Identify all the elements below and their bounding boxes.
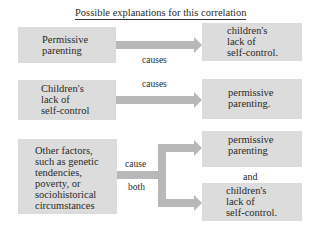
label-causes-row2: causes xyxy=(142,79,167,89)
arrow-row3-fork xyxy=(116,140,202,211)
box-permissive-parenting-effect-row3: permissive parenting xyxy=(202,131,302,167)
box-line: permissive xyxy=(228,134,302,145)
box-line: Permissive xyxy=(42,34,116,45)
box-line: lack of xyxy=(226,196,302,207)
box-children-lack-self-control-effect-row3: children's lack of self-control. xyxy=(202,183,302,221)
box-line: poverty, or xyxy=(35,178,117,189)
box-children-lack-self-control-cause: Children's lack of self-control xyxy=(18,80,116,120)
box-permissive-parenting-effect: permissive parenting. xyxy=(202,79,302,119)
box-line: self-control xyxy=(41,105,116,116)
arrow-row2 xyxy=(116,92,202,108)
arrow-row1 xyxy=(116,37,202,53)
box-line: sociohistorical xyxy=(35,189,117,200)
box-line: circumstances xyxy=(35,200,117,211)
box-line: self-control. xyxy=(226,207,302,218)
box-line: lack of xyxy=(227,36,302,47)
box-line: permissive xyxy=(228,87,302,98)
box-line: children's xyxy=(226,185,302,196)
label-and: and xyxy=(243,171,257,182)
box-line: children's xyxy=(227,25,302,36)
label-cause: cause xyxy=(125,159,146,169)
box-other-factors: Other factors, such as genetic tendencie… xyxy=(18,139,117,214)
label-causes-row1: causes xyxy=(142,55,167,65)
box-line: lack of xyxy=(41,94,116,105)
box-line: tendencies, xyxy=(35,167,117,178)
box-permissive-parenting-cause: Permissive parenting xyxy=(18,27,116,63)
box-children-lack-self-control-effect: children's lack of self-control. xyxy=(202,23,302,61)
box-line: such as genetic xyxy=(35,156,117,167)
box-line: parenting xyxy=(228,145,302,156)
box-line: Children's xyxy=(41,83,116,94)
label-both: both xyxy=(128,182,145,192)
box-line: self-control. xyxy=(227,47,302,58)
box-line: parenting xyxy=(42,45,116,56)
box-line: parenting. xyxy=(228,98,302,109)
box-line: Other factors, xyxy=(35,145,117,156)
